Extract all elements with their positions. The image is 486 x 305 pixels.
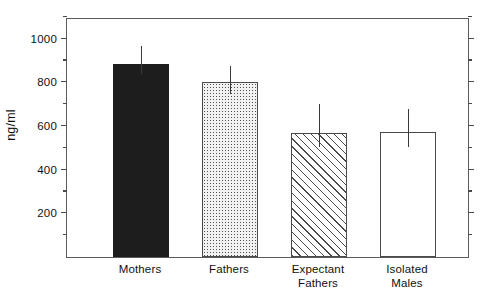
x-label-line: Males: [347, 277, 467, 291]
major-tick-r-600: [468, 125, 474, 126]
minor-tick-l-300: [63, 190, 67, 191]
major-tick-r-200: [468, 212, 474, 213]
major-tick-l-400: [61, 169, 67, 170]
bar-fathers: [202, 82, 258, 257]
y-tick-label-400: 400: [37, 164, 57, 176]
bar-mothers: [113, 64, 169, 257]
major-tick-l-1000: [61, 38, 67, 39]
minor-tick-l-1100: [63, 16, 67, 17]
y-tick-label-800: 800: [37, 76, 57, 88]
error-bar-fathers: [230, 66, 231, 94]
minor-tick-r-1100: [468, 16, 472, 17]
figure-container: ng/ml 2004006008001000 MothersFathersExp…: [0, 0, 486, 305]
x-label-line: Isolated: [347, 263, 467, 277]
minor-tick-r-100: [468, 234, 472, 235]
y-tick-label-1000: 1000: [31, 33, 57, 45]
minor-tick-l-700: [63, 103, 67, 104]
major-tick-r-400: [468, 169, 474, 170]
minor-tick-l-900: [63, 59, 67, 60]
y-tick-label-600: 600: [37, 120, 57, 132]
error-bar-mothers: [141, 46, 142, 73]
x-axis-label-isolated-males: IsolatedMales: [347, 263, 467, 290]
major-tick-l-800: [61, 81, 67, 82]
major-tick-r-1000: [468, 38, 474, 39]
major-tick-r-800: [468, 81, 474, 82]
minor-tick-l-500: [63, 147, 67, 148]
y-axis-label: ng/ml: [4, 90, 18, 160]
y-tick-label-200: 200: [37, 207, 57, 219]
minor-tick-r-700: [468, 103, 472, 104]
error-bar-isolated-males: [408, 109, 409, 147]
minor-tick-r-300: [468, 190, 472, 191]
minor-tick-l-100: [63, 234, 67, 235]
error-bar-expectant-fathers: [319, 104, 320, 147]
major-tick-l-600: [61, 125, 67, 126]
bar-isolated-males: [380, 132, 436, 257]
plot-area: 2004006008001000: [66, 18, 469, 258]
minor-tick-r-500: [468, 147, 472, 148]
bar-expectant-fathers: [291, 133, 347, 257]
major-tick-l-200: [61, 212, 67, 213]
minor-tick-r-900: [468, 59, 472, 60]
